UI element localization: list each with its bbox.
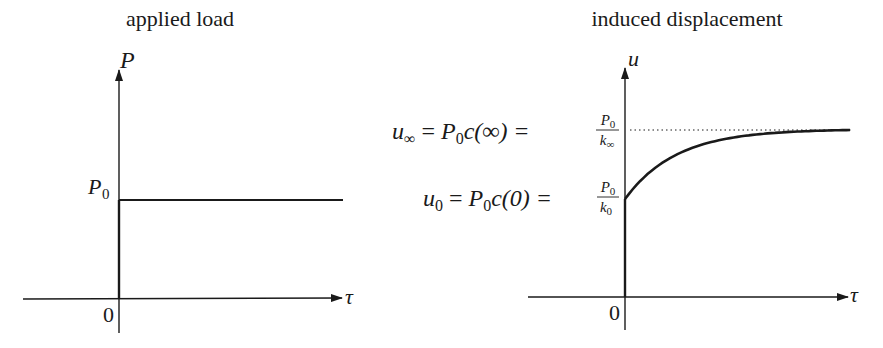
u0-p-sub: 0 xyxy=(483,197,491,214)
u-inf-frac-num-main: P xyxy=(600,112,610,128)
u-inf-frac-den: k∞ xyxy=(600,132,615,150)
disp-origin-label: 0 xyxy=(609,300,620,325)
load-x-axis xyxy=(23,298,342,299)
u0-fraction: P0 k0 xyxy=(597,179,619,217)
u0-frac-num-sub: 0 xyxy=(610,185,616,197)
load-level-main: P xyxy=(87,174,101,199)
load-level-sub: 0 xyxy=(102,186,110,202)
u0-frac-num-main: P xyxy=(600,179,610,195)
disp-y-axis-label: u xyxy=(628,46,639,71)
u-inf-frac-den-sub: ∞ xyxy=(606,138,614,150)
load-level-label: P 0 xyxy=(87,174,110,202)
u0-p: P xyxy=(468,185,484,211)
disp-x-axis-label: τ xyxy=(850,282,859,307)
load-origin-label: 0 xyxy=(103,302,114,327)
u0-frac-den-sub: 0 xyxy=(607,205,613,217)
u0-eq1: = xyxy=(449,185,469,211)
creep-response-curve xyxy=(625,130,850,199)
u0-main: u xyxy=(423,185,435,211)
u-inf-eq1: = xyxy=(421,118,441,144)
load-x-axis-label: τ xyxy=(345,284,354,309)
u0-frac-num: P0 xyxy=(600,179,616,197)
panel-title-induced-displacement: induced displacement xyxy=(591,6,782,31)
u-inf-fraction: P0 k∞ xyxy=(596,112,619,150)
asymptote-label: u∞= P0c(∞) = P0 k∞ xyxy=(392,112,619,150)
u-inf-frac-num-sub: 0 xyxy=(610,118,616,130)
u0-frac-den: k0 xyxy=(600,199,613,217)
panel-title-applied-load: applied load xyxy=(126,6,234,31)
u0-rest: c(0) = xyxy=(491,185,552,211)
u-inf-main: u xyxy=(392,118,404,144)
initial-label: u0= P0c(0) = P0 k0 xyxy=(423,179,619,217)
u-inf-p: P xyxy=(440,118,456,144)
applied-load-panel: applied load P τ 0 P 0 xyxy=(23,6,354,333)
diagram-canvas: applied load P τ 0 P 0 induced displacem… xyxy=(0,0,883,348)
u-inf-sub: ∞ xyxy=(404,130,415,147)
induced-displacement-panel: induced displacement u τ 0 u∞= P0c(∞) = … xyxy=(392,6,859,330)
initial-equation: u0= P0c(0) = xyxy=(423,185,552,214)
u-inf-p-sub: 0 xyxy=(456,130,464,147)
u-inf-rest: c(∞) = xyxy=(464,118,530,144)
u-inf-frac-num: P0 xyxy=(600,112,616,130)
u0-sub: 0 xyxy=(435,197,443,214)
asymptote-equation: u∞= P0c(∞) = xyxy=(392,118,530,147)
load-y-axis-label: P xyxy=(119,47,135,73)
